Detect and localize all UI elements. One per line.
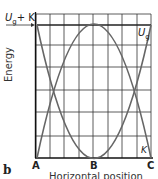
x-tick-a: A (32, 160, 40, 171)
ug-curve-label: Ug (138, 28, 150, 41)
grid (36, 14, 151, 158)
x-axis-label: Horizontal position (49, 171, 143, 179)
ug-label-sub: g (145, 33, 149, 41)
panel-label: b (3, 163, 11, 177)
total-energy-label: Ug+ K (5, 13, 35, 26)
y-axis-label: Energy (3, 47, 14, 82)
x-tick-b: B (90, 160, 98, 171)
energy-chart (0, 0, 158, 179)
total-energy-label-rest: + K (17, 12, 35, 23)
x-tick-c: C (147, 160, 154, 171)
k-curve-label: K (141, 146, 147, 155)
